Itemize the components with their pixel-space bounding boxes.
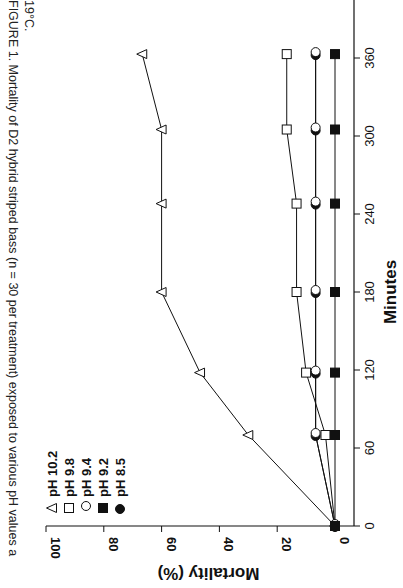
- mortality-tick-label: 20: [279, 537, 294, 551]
- minutes-tick-label: 0: [362, 522, 377, 529]
- triangle-marker-icon: [195, 368, 205, 377]
- minutes-axis-title: Minutes: [381, 260, 400, 324]
- legend-label: pH 8.5: [113, 458, 128, 497]
- minutes-tick-label: 300: [362, 125, 377, 147]
- legend-label: pH 9.8: [62, 458, 77, 497]
- mortality-tick-label: 0: [337, 537, 352, 544]
- minutes-tick-label: 360: [362, 47, 377, 69]
- open-square-marker-icon: [65, 504, 74, 513]
- legend-label: pH 9.2: [96, 458, 111, 497]
- series-lines: [142, 54, 335, 526]
- legend-label: pH 9.4: [79, 457, 94, 497]
- open-circle-marker-icon: [311, 123, 320, 132]
- open-circle-marker-icon: [311, 366, 320, 375]
- mortality-tick-label: 60: [164, 537, 179, 551]
- open-square-marker-icon: [282, 125, 291, 134]
- legend-label: pH 10.2: [45, 451, 60, 497]
- minutes-tick-label: 120: [362, 359, 377, 381]
- open-circle-marker-icon: [311, 48, 320, 57]
- mortality-axis-title: Mortality (%): [158, 564, 260, 583]
- series-line: [142, 54, 335, 526]
- series-markers: [137, 48, 340, 532]
- mortality-tick-label: 100: [48, 537, 63, 559]
- filled-square-marker-icon: [331, 522, 340, 531]
- open-circle-marker-icon: [311, 429, 320, 438]
- triangle-marker-icon: [137, 50, 147, 59]
- open-circle-marker-icon: [311, 286, 320, 295]
- minutes-tick-label: 240: [362, 203, 377, 225]
- filled-circle-marker-icon: [116, 505, 125, 514]
- minutes-tick-label: 180: [362, 281, 377, 303]
- filled-square-marker-icon: [331, 125, 340, 134]
- open-square-marker-icon: [282, 50, 291, 59]
- triangle-marker-icon: [243, 431, 253, 440]
- open-circle-marker-icon: [82, 502, 91, 511]
- filled-square-marker-icon: [331, 431, 340, 440]
- open-square-marker-icon: [321, 431, 330, 440]
- triangle-marker-icon: [47, 504, 57, 513]
- open-square-marker-icon: [292, 288, 301, 297]
- filled-square-marker-icon: [331, 288, 340, 297]
- minutes-tick-label: 60: [362, 441, 377, 455]
- mortality-tick-label: 40: [221, 537, 236, 551]
- open-square-marker-icon: [302, 368, 311, 377]
- open-circle-marker-icon: [311, 197, 320, 206]
- filled-square-marker-icon: [331, 50, 340, 59]
- filled-square-marker-icon: [99, 504, 108, 513]
- open-square-marker-icon: [292, 199, 301, 208]
- filled-square-marker-icon: [331, 368, 340, 377]
- mortality-tick-label: 80: [106, 537, 121, 551]
- chart-legend: pH 10.2pH 9.8pH 9.4pH 9.2pH 8.5: [45, 451, 128, 514]
- filled-square-marker-icon: [331, 199, 340, 208]
- mortality-chart: 020406080100Mortality (%)060120180240300…: [0, 0, 403, 588]
